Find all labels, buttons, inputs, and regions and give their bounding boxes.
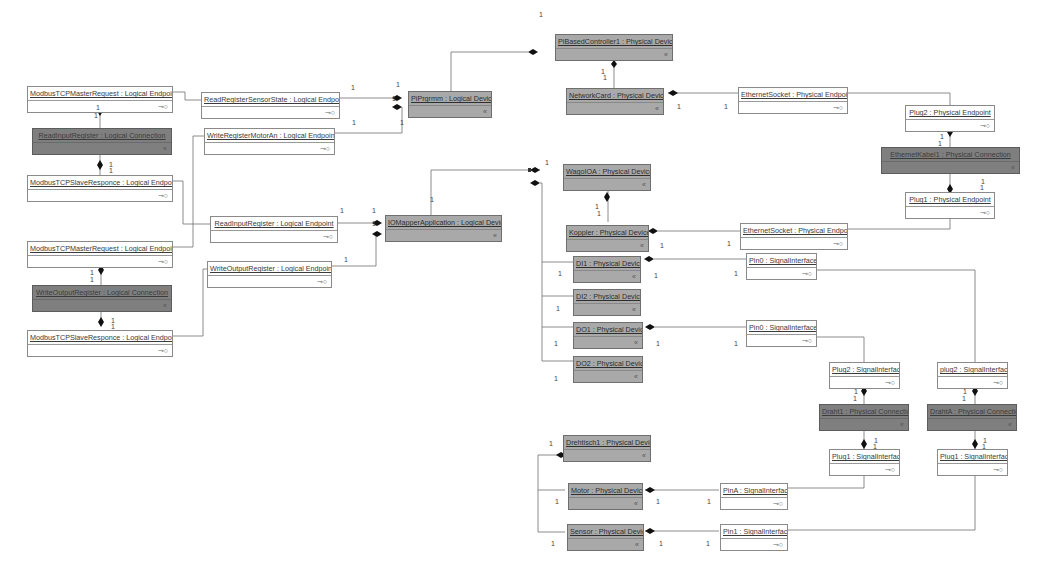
multiplicity-label: 1	[539, 11, 543, 19]
node-do2[interactable]: DO2 : Physical Device «	[573, 356, 643, 383]
multiplicity-label: 1	[654, 272, 658, 280]
node-title: PinA : SignalInterface	[721, 484, 787, 498]
collapse-icon: «	[664, 49, 668, 60]
node-title: Plug2 : Physical Endpoint	[906, 106, 994, 120]
node-modbus-master-request-1[interactable]: ModbusTCPMasterRequest : Logical Endpoin…	[27, 86, 173, 113]
node-modbus-slave-responce-2[interactable]: ModbusTCPSlaveResponce : Logical Endpoin…	[27, 330, 173, 357]
node-plug2-physical-endpoint[interactable]: Plug2 : Physical Endpoint ⊸○	[905, 105, 995, 132]
multiplicity-label: 1	[554, 340, 558, 348]
node-title: plug2 : SignalInterface	[938, 363, 1007, 377]
port-icon: ⊸○	[773, 498, 783, 509]
node-write-register-motor-an[interactable]: WriteRegisterMotorAn : Logical Endpoint …	[204, 128, 335, 155]
node-iomapper-application[interactable]: IOMapperApplication : Logical Device «	[385, 215, 502, 242]
multiplicity-label: 1	[551, 540, 555, 548]
node-piprgrmm[interactable]: PiPrgrmm : Logical Device «	[408, 91, 492, 118]
multiplicity-label: 1	[555, 498, 559, 506]
node-koppler[interactable]: Koppler : Physical Device «	[566, 225, 649, 252]
multiplicity-label: 1	[707, 498, 711, 506]
node-title: Pin1 : SignalInterface	[721, 525, 787, 539]
node-di1[interactable]: DI1 : Physical Device «	[573, 256, 641, 283]
port-icon: ⊸○	[802, 335, 812, 346]
diagram-canvas: ModbusTCPMasterRequest : Logical Endpoin…	[0, 0, 1046, 575]
port-icon: ⊸○	[158, 256, 168, 267]
node-ethernet-socket-2[interactable]: EthernetSocket : Physical Endpoint ⊸○	[740, 223, 848, 250]
node-plug2-signal-b[interactable]: plug2 : SignalInterface ⊸○	[937, 362, 1008, 389]
node-title: Draht1 : Physical Connection	[820, 405, 908, 419]
multiplicity-label: 1	[853, 395, 857, 403]
collapse-icon: «	[642, 179, 646, 190]
node-ethernet-kabel[interactable]: EthernetKabel1 : Physical Connection «	[881, 147, 1020, 174]
multiplicity-label: 1	[396, 81, 400, 89]
multiplicity-label: 1	[549, 440, 553, 448]
multiplicity-label: 1	[430, 196, 434, 204]
port-icon: ⊸○	[980, 207, 990, 218]
port-icon: ⊸○	[833, 238, 843, 249]
multiplicity-label: 1	[372, 207, 376, 215]
node-title: Plug1 : SignalInterface	[830, 450, 899, 464]
port-icon: ⊸○	[320, 143, 330, 154]
node-title: ModbusTCPMasterRequest : Logical Endpoin…	[28, 242, 172, 256]
node-pin0-do1[interactable]: Pin0 : SignalInterface ⊸○	[746, 320, 817, 347]
multiplicity-label: 1	[980, 184, 984, 192]
collapse-icon: «	[632, 271, 636, 282]
node-wagoioa[interactable]: WagoIOA : Physical Device «	[563, 164, 651, 191]
node-modbus-master-request-2[interactable]: ModbusTCPMasterRequest : Logical Endpoin…	[27, 241, 173, 268]
collapse-icon: «	[483, 106, 487, 117]
node-title: Plug1 : Physical Endpoint	[906, 193, 994, 207]
node-pin1[interactable]: Pin1 : SignalInterface ⊸○	[720, 524, 788, 551]
node-plug1-signal-b[interactable]: Plug1 : SignalInterface ⊸○	[937, 449, 1008, 476]
node-title: ReadInputRegister : Logical Endpoint	[211, 217, 337, 231]
node-title: IOMapperApplication : Logical Device	[386, 216, 501, 230]
multiplicity-label: 1	[94, 112, 98, 120]
node-sensor[interactable]: Sensor : Physical Device «	[567, 524, 644, 551]
node-title: Motor : Physical Device	[569, 484, 642, 498]
multiplicity-label: 1	[677, 103, 681, 111]
node-read-register-sensor-state[interactable]: ReadRegisterSensorState : Logical Endpoi…	[201, 92, 340, 119]
node-read-input-register-connection[interactable]: ReadInputRegister : Logical Connection «	[32, 128, 172, 155]
node-title: WriteRegisterMotorAn : Logical Endpoint	[205, 129, 334, 143]
node-ethernet-socket-1[interactable]: EthernetSocket : Physical Endpoint ⊸○	[738, 87, 848, 114]
node-network-card[interactable]: NetworkCard : Physical Device «	[566, 88, 664, 115]
node-drahta[interactable]: DrahtA : Physical Connection «	[927, 404, 1017, 431]
node-plug1-physical-endpoint[interactable]: Plug1 : Physical Endpoint ⊸○	[905, 192, 995, 219]
port-icon: ⊸○	[885, 464, 895, 475]
multiplicity-label: 1	[659, 540, 663, 548]
node-pina[interactable]: PinA : SignalInterface ⊸○	[720, 483, 788, 510]
collapse-icon: «	[634, 337, 638, 348]
node-title: ModbusTCPSlaveResponce : Logical Endpoin…	[28, 331, 172, 345]
multiplicity-label: 1	[734, 270, 738, 278]
node-di2[interactable]: DI2 : Physical Device «	[573, 289, 641, 316]
node-pibased-controller[interactable]: PiBasedController1 : Physical Device «	[555, 34, 673, 61]
node-title: Koppler : Physical Device	[567, 226, 648, 240]
node-title: DI2 : Physical Device	[574, 290, 640, 304]
node-motor[interactable]: Motor : Physical Device «	[568, 483, 643, 510]
port-icon: ⊸○	[323, 231, 333, 242]
collapse-icon: «	[1011, 162, 1015, 173]
node-read-input-register-endpoint[interactable]: ReadInputRegister : Logical Endpoint ⊸○	[210, 216, 338, 243]
node-title: ModbusTCPMasterRequest : Logical Endpoin…	[28, 87, 172, 101]
node-write-output-register-endpoint[interactable]: WriteOutputRegister : Logical Endpoint ⊸…	[207, 261, 332, 288]
node-title: Sensor : Physical Device	[568, 525, 643, 539]
node-modbus-slave-responce-1[interactable]: ModbusTCPSlaveResponce : Logical Endpoin…	[27, 175, 173, 202]
multiplicity-label: 1	[372, 220, 376, 228]
node-plug1-signal-a[interactable]: Plug1 : SignalInterface ⊸○	[829, 449, 900, 476]
node-title: ReadInputRegister : Logical Connection	[33, 129, 171, 143]
port-icon: ⊸○	[993, 377, 1003, 388]
port-icon: ⊸○	[993, 464, 1003, 475]
node-title: ModbusTCPSlaveResponce : Logical Endpoin…	[28, 176, 172, 190]
node-do1[interactable]: DO1 : Physical Device «	[573, 322, 643, 349]
multiplicity-label: 1	[344, 256, 348, 264]
node-write-output-register-connection[interactable]: WriteOutputRegister : Logical Connection…	[32, 285, 172, 312]
node-pin0-di1[interactable]: Pin0 : SignalInterface ⊸○	[746, 253, 817, 280]
node-drehtisch1[interactable]: Drehtisch1 : Physical Device «	[563, 435, 651, 462]
multiplicity-label: 1	[660, 242, 664, 250]
node-plug2-signal-a[interactable]: Plug2 : SignalInterface ⊸○	[829, 362, 900, 389]
node-title: EthernetSocket : Physical Endpoint	[741, 224, 847, 238]
node-title: Plug1 : SignalInterface	[938, 450, 1007, 464]
multiplicity-label: 1	[558, 270, 562, 278]
port-icon: ⊸○	[802, 268, 812, 279]
port-icon: ⊸○	[317, 276, 327, 287]
multiplicity-label: 1	[603, 74, 607, 82]
collapse-icon: «	[642, 450, 646, 461]
node-draht1[interactable]: Draht1 : Physical Connection «	[819, 404, 909, 431]
